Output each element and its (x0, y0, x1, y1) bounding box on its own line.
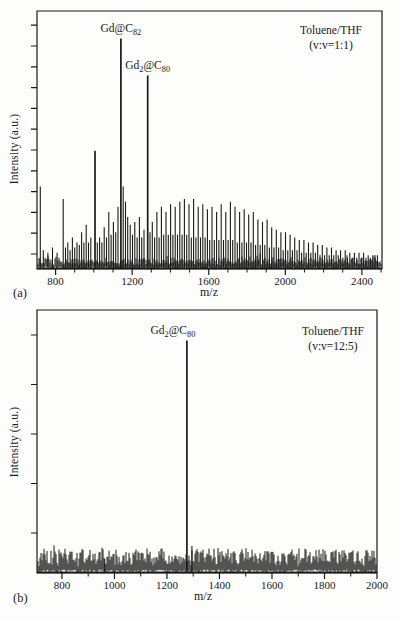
spectra-canvas: 8001200160020002400 80010001200140016001… (0, 0, 401, 619)
panel-a-letter: (a) (13, 286, 27, 301)
x-tick-label: 1800 (313, 579, 336, 591)
y-ticks (31, 335, 37, 533)
x-tick-label: 2400 (351, 275, 374, 287)
noise-floor (38, 545, 376, 572)
peak-label-gd2-c80: Gd2@C80 (88, 59, 208, 71)
panel-a-x-axis-label: m/z (179, 285, 239, 300)
panel-b-solvent-line2: (v:v=12:5) (271, 339, 395, 354)
panel-b-y-axis-label: Intensity (a.u.) (8, 372, 20, 512)
panel-b-solvent-line1: Toluene/THF (271, 324, 395, 339)
x-tick-label: 1200 (121, 275, 144, 287)
x-tick-label: 2000 (274, 275, 297, 287)
x-tick-label: 1600 (261, 579, 284, 591)
panel-a-y-axis-label: Intensity (a.u.) (8, 79, 20, 219)
panel-a-solvent-line2: (v:v=1:1) (269, 38, 393, 53)
peak-label-gd2-c80: Gd2@C80 (113, 324, 233, 336)
y-ticks (31, 25, 37, 254)
panel-b-x-axis-label: m/z (173, 589, 233, 604)
x-tick-label: 800 (54, 579, 71, 591)
x-tick-label: 800 (47, 275, 64, 287)
peak-label-gd-c82: Gd@C82 (61, 22, 181, 34)
x-tick-label: 2000 (366, 579, 389, 591)
panel-b-solvent-annotation: Toluene/THF (v:v=12:5) (271, 324, 395, 353)
panel-a-solvent-line1: Toluene/THF (269, 23, 393, 38)
panel-b-letter: (b) (13, 591, 28, 606)
x-tick-label: 1000 (103, 579, 126, 591)
spectrum-peaks (40, 186, 377, 268)
panel-a-solvent-annotation: Toluene/THF (v:v=1:1) (269, 23, 393, 52)
panel-a-plot: 8001200160020002400 (31, 11, 382, 287)
